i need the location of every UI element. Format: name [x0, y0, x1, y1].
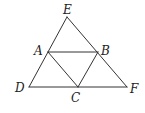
- label-F: F: [129, 82, 139, 96]
- segment-AC: [48, 52, 78, 87]
- label-D: D: [14, 81, 25, 95]
- label-E: E: [62, 3, 72, 17]
- label-A: A: [33, 44, 43, 58]
- segments: [29, 17, 127, 87]
- label-B: B: [100, 44, 110, 58]
- segment-BC: [78, 52, 98, 87]
- label-C: C: [71, 91, 80, 105]
- vertex-labels: E A B D C F: [14, 3, 139, 105]
- triangle-diagram: E A B D C F: [0, 0, 145, 113]
